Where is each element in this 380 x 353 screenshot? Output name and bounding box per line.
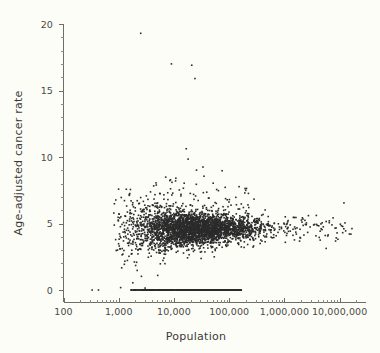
data-point: [131, 235, 133, 237]
data-point: [178, 207, 180, 209]
data-point: [245, 212, 247, 214]
data-point: [149, 221, 151, 223]
data-point: [140, 249, 142, 251]
data-point: [242, 216, 244, 218]
data-point: [213, 242, 215, 244]
data-point: [204, 216, 206, 218]
data-point: [198, 289, 200, 291]
data-point: [266, 233, 268, 235]
data-point: [123, 240, 125, 242]
data-point: [130, 189, 132, 191]
data-point: [185, 240, 187, 242]
data-point: [154, 213, 156, 215]
data-point: [227, 229, 229, 231]
data-point: [349, 233, 351, 235]
data-point: [162, 236, 164, 238]
data-point: [163, 212, 165, 214]
data-point: [263, 231, 265, 233]
data-point: [191, 223, 193, 225]
data-point: [216, 225, 218, 227]
data-point: [134, 261, 136, 263]
data-point: [176, 245, 178, 247]
data-point: [224, 187, 226, 189]
data-point: [336, 232, 338, 234]
data-point: [164, 251, 166, 253]
data-point: [259, 243, 261, 245]
data-point: [130, 200, 132, 202]
data-point: [119, 236, 121, 238]
data-point: [241, 223, 243, 225]
data-point: [171, 194, 173, 196]
data-point: [211, 228, 213, 230]
data-point: [180, 222, 182, 224]
data-point: [124, 232, 126, 234]
data-point: [289, 230, 291, 232]
data-point: [225, 245, 227, 247]
data-point: [231, 230, 233, 232]
data-point: [144, 289, 146, 291]
data-point: [225, 235, 227, 237]
data-point: [237, 208, 239, 210]
data-point: [246, 188, 248, 190]
data-point: [138, 234, 140, 236]
data-point: [175, 225, 177, 227]
data-point: [136, 261, 138, 263]
data-point: [157, 239, 159, 241]
data-point: [268, 221, 270, 223]
data-point: [131, 253, 133, 255]
data-point: [196, 169, 198, 171]
data-point: [203, 192, 205, 194]
data-point: [129, 220, 131, 222]
data-point: [135, 265, 137, 267]
data-point: [185, 148, 187, 150]
data-point: [170, 232, 172, 234]
data-point: [156, 252, 158, 254]
data-point: [138, 214, 140, 216]
data-point: [203, 175, 205, 177]
data-point: [137, 224, 139, 226]
data-point: [314, 224, 316, 226]
data-point: [139, 248, 141, 250]
data-point: [191, 238, 193, 240]
data-point: [159, 239, 161, 241]
data-point: [240, 246, 242, 248]
data-point: [164, 243, 166, 245]
data-point: [252, 237, 254, 239]
data-point: [206, 233, 208, 235]
data-point: [150, 234, 152, 236]
data-point: [176, 240, 178, 242]
data-point: [151, 230, 153, 232]
data-point: [255, 233, 257, 235]
data-point: [251, 216, 253, 218]
data-point: [128, 256, 130, 258]
data-point: [149, 206, 151, 208]
data-point: [118, 188, 120, 190]
data-point: [174, 224, 176, 226]
data-point: [203, 227, 205, 229]
data-point: [174, 289, 176, 291]
data-point: [230, 237, 232, 239]
data-point: [235, 219, 237, 221]
data-point: [137, 236, 139, 238]
data-point: [126, 188, 128, 190]
data-point: [213, 233, 215, 235]
data-point: [320, 223, 322, 225]
data-point: [318, 237, 320, 239]
y-tick-label: 20: [41, 19, 53, 30]
data-point: [217, 232, 219, 234]
data-point: [287, 220, 289, 222]
data-point: [158, 250, 160, 252]
data-point: [138, 227, 140, 229]
data-point: [133, 214, 135, 216]
data-point: [146, 209, 148, 211]
data-point: [155, 182, 157, 184]
data-point: [233, 227, 235, 229]
data-point: [164, 207, 166, 209]
data-point: [214, 242, 216, 244]
y-axis-title: Age-adjusted cancer rate: [12, 90, 25, 235]
data-point: [215, 216, 217, 218]
data-point: [283, 230, 285, 232]
data-point: [153, 239, 155, 241]
data-point: [140, 236, 142, 238]
data-point: [217, 219, 219, 221]
